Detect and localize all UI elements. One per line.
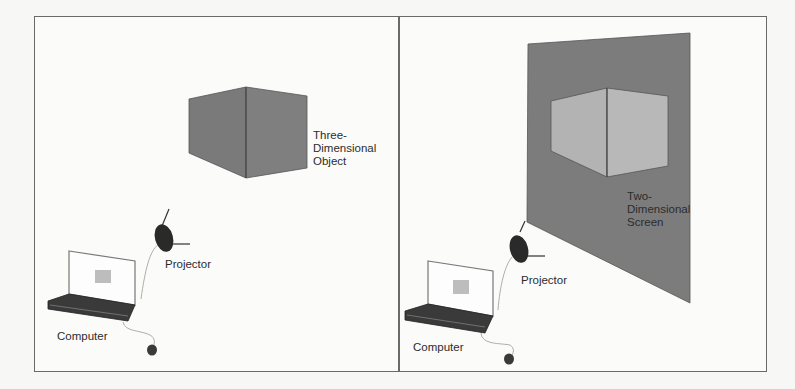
three-dimensional-cube-icon bbox=[189, 87, 307, 178]
three-dimensional-object-label: Three- Dimensional Object bbox=[313, 129, 376, 168]
projector-icon bbox=[152, 209, 190, 254]
mouse-icon bbox=[504, 354, 514, 365]
laptop-icon bbox=[48, 251, 135, 321]
projector-label: Projector bbox=[165, 258, 211, 271]
two-dimensional-screen-label: Two- Dimensional Screen bbox=[627, 190, 690, 229]
two-dimensional-screen-icon bbox=[527, 33, 690, 303]
mouse-icon bbox=[147, 345, 157, 356]
laptop-icon bbox=[405, 261, 493, 333]
projector-label: Projector bbox=[521, 274, 567, 287]
computer-label: Computer bbox=[57, 330, 108, 343]
computer-label: Computer bbox=[413, 341, 464, 354]
